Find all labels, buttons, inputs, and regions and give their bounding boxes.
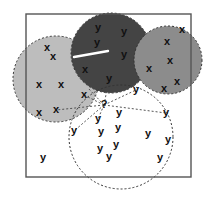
point-x: x: [53, 103, 60, 115]
point-x: x: [161, 82, 168, 94]
point-y: y: [163, 106, 170, 118]
point-x: x: [174, 75, 181, 87]
point-y: y: [121, 25, 128, 37]
point-x: x: [36, 78, 43, 90]
point-y: y: [113, 138, 120, 150]
point-x: x: [167, 54, 174, 66]
point-x: x: [82, 63, 89, 75]
point-x: x: [179, 23, 186, 35]
knn-diagram: xxxxxxxxyyyyyxxxxxxyyyyyyyyyyyyyy ?: [0, 0, 212, 200]
point-y: y: [40, 151, 47, 163]
point-y: y: [95, 112, 102, 124]
point-y: y: [97, 142, 104, 154]
point-y: y: [106, 150, 113, 162]
point-x: x: [36, 106, 43, 118]
point-x: x: [164, 35, 171, 47]
point-y: y: [94, 36, 101, 48]
point-y: y: [98, 125, 105, 137]
neighbor-line: [104, 105, 166, 113]
point-y: y: [116, 106, 123, 118]
point-x: x: [50, 50, 57, 62]
point-x: x: [58, 78, 65, 90]
point-y: y: [133, 83, 140, 95]
point-y: y: [165, 133, 172, 145]
point-x: x: [81, 88, 88, 100]
point-y: y: [106, 72, 113, 84]
point-x: x: [146, 62, 153, 74]
point-y: y: [145, 127, 152, 139]
point-y: y: [71, 124, 78, 136]
point-y: y: [95, 21, 102, 33]
point-y: y: [121, 48, 128, 60]
point-y: y: [115, 121, 122, 133]
query-point: ?: [101, 98, 108, 110]
point-y: y: [157, 151, 164, 163]
